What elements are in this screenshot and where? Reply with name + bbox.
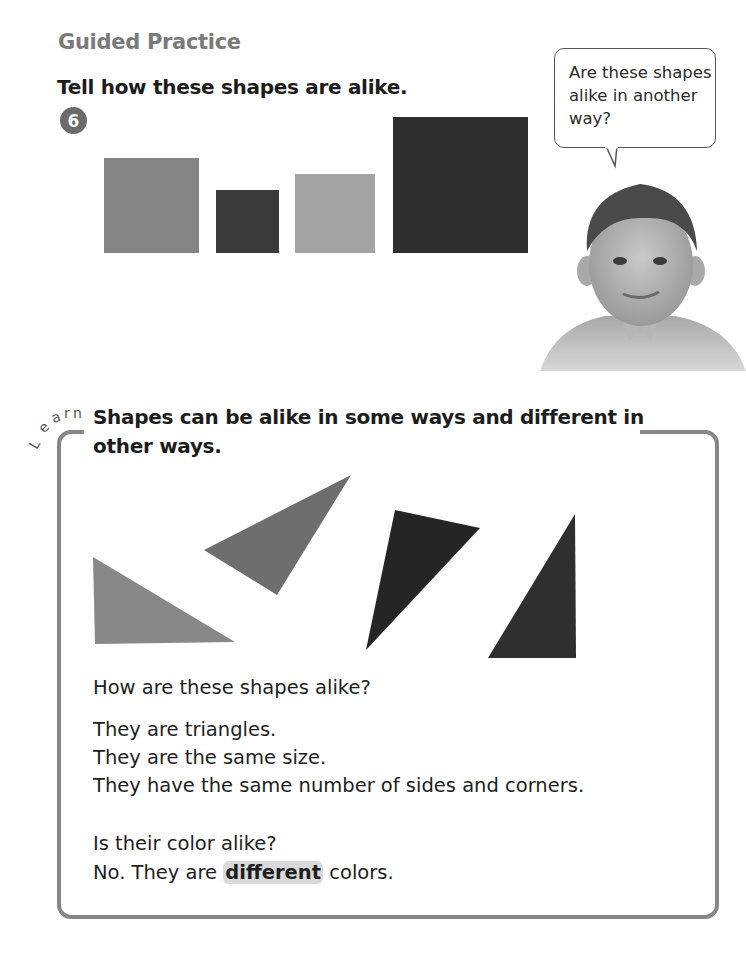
- color-answer-suffix: colors.: [323, 861, 394, 884]
- highlight-different: different: [223, 861, 323, 884]
- triangle-1: [93, 557, 235, 644]
- color-answer-prefix: No. They are: [93, 861, 223, 884]
- triangles-group: [0, 0, 746, 969]
- answer-line-3: They have the same number of sides and c…: [93, 774, 584, 797]
- answer-line-1: They are triangles.: [93, 718, 276, 741]
- triangle-2: [204, 475, 351, 595]
- color-answer: No. They are different colors.: [93, 861, 394, 884]
- answer-line-2: They are the same size.: [93, 746, 326, 769]
- question-text: How are these shapes alike?: [93, 676, 371, 699]
- triangle-3: [366, 510, 480, 650]
- triangle-4: [488, 514, 576, 658]
- color-question: Is their color alike?: [93, 832, 277, 855]
